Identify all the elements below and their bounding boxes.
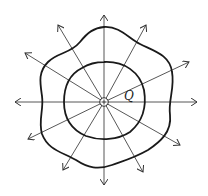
point-charge <box>100 98 108 106</box>
field-diagram: Q <box>0 0 208 196</box>
field-line-right-up <box>104 62 189 102</box>
charge-label: Q <box>124 89 134 103</box>
